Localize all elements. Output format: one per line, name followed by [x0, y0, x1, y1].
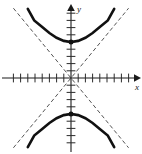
x-axis-arrow-icon: [134, 74, 141, 82]
vertex-dot-upper: [69, 40, 74, 45]
x-axis-label: x: [134, 82, 139, 92]
y-axis-arrow-icon: [67, 4, 75, 11]
hyperbola-figure: y x: [0, 0, 142, 154]
graph-canvas: y x: [0, 0, 142, 154]
vertex-dot-lower: [69, 112, 74, 117]
y-axis-label: y: [76, 4, 81, 14]
